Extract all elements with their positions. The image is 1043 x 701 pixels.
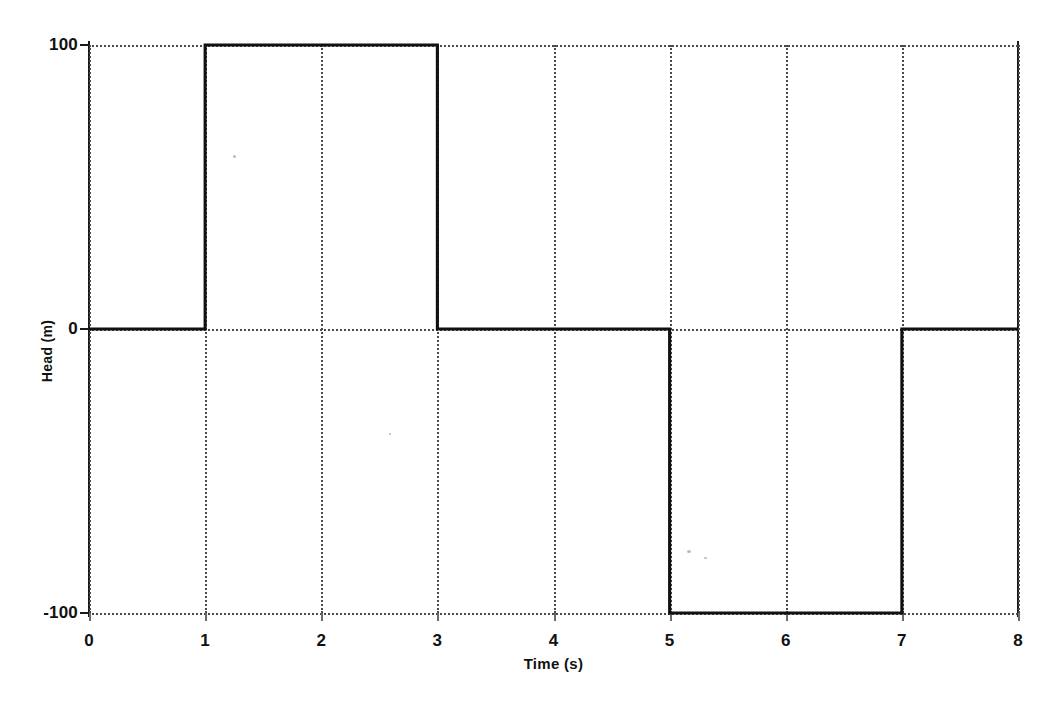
x-tick-mark (205, 613, 207, 621)
vertical-gridline (1018, 45, 1020, 613)
x-tick-label: 3 (433, 631, 443, 651)
x-axis-title: Time (s) (89, 655, 1018, 672)
x-tick-label: 1 (200, 631, 210, 651)
x-tick-mark (1018, 613, 1020, 621)
x-tick-label: 0 (84, 631, 94, 651)
data-series-layer (89, 45, 1018, 613)
x-tick-mark (554, 613, 556, 621)
x-tick-label: 2 (316, 631, 326, 651)
plot-area: 012345678 -1000100 (89, 45, 1018, 613)
y-tick-label: -100 (43, 603, 78, 623)
scan-speckle (233, 155, 236, 158)
y-tick-mark (80, 44, 89, 46)
x-tick-label: 8 (1013, 631, 1023, 651)
x-tick-mark (437, 613, 439, 621)
x-tick-label: 7 (897, 631, 907, 651)
y-tick-mark (80, 612, 89, 614)
x-tick-mark (321, 613, 323, 621)
x-tick-label: 4 (549, 631, 559, 651)
scan-speckle (389, 433, 391, 435)
x-tick-mark (89, 613, 91, 621)
y-tick-label: 100 (49, 35, 78, 55)
scan-speckle (704, 557, 707, 559)
chart-figure: Head (m) Time (s) 012345678 -1000100 (0, 0, 1043, 701)
series-head-line (89, 45, 1018, 613)
x-tick-label: 5 (665, 631, 675, 651)
y-tick-mark (80, 328, 89, 330)
x-tick-label: 6 (781, 631, 791, 651)
y-axis-title: Head (m) (39, 319, 55, 381)
y-tick-label: 0 (68, 319, 78, 339)
scan-speckle (687, 550, 691, 553)
